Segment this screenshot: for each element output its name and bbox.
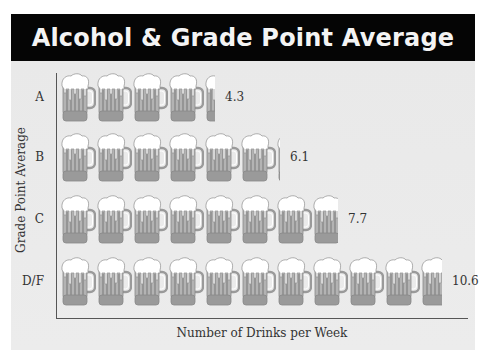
value-label: 6.1 [290, 150, 309, 164]
value-label: 10.6 [452, 274, 479, 288]
beer-mug-icon [421, 256, 442, 308]
category-label: A [35, 90, 44, 104]
beer-mug-icon [61, 194, 96, 246]
beer-mug-icon [277, 132, 280, 184]
beer-mug-icon [241, 132, 276, 184]
mug-bar [61, 194, 338, 246]
beer-mug-icon [349, 256, 384, 308]
bar-row-a: A 4.3 [0, 72, 491, 124]
beer-mug-icon [313, 256, 348, 308]
beer-mug-icon [97, 194, 132, 246]
bar-row-b: B [0, 132, 491, 184]
x-axis-title: Number of Drinks per Week [56, 326, 468, 340]
beer-mug-icon [169, 132, 204, 184]
mug-bar [61, 132, 280, 184]
beer-mug-icon [61, 72, 96, 124]
beer-mug-icon [61, 132, 96, 184]
chart-title: Alcohol & Grade Point Average [11, 14, 475, 61]
beer-mug-icon [241, 256, 276, 308]
beer-mug-icon [205, 256, 240, 308]
category-label: C [35, 212, 44, 226]
x-axis-line [56, 318, 468, 319]
beer-mug-icon [133, 132, 168, 184]
beer-mug-icon [169, 72, 204, 124]
beer-mug-icon [133, 194, 168, 246]
beer-mug-icon [205, 194, 240, 246]
mug-bar [61, 256, 442, 308]
bar-row-c: C [0, 194, 491, 246]
beer-mug-icon [169, 194, 204, 246]
beer-mug-icon [133, 256, 168, 308]
beer-mug-icon [97, 72, 132, 124]
beer-mug-icon [313, 194, 338, 246]
mug-bar [61, 72, 215, 124]
beer-mug-icon [277, 194, 312, 246]
beer-mug-icon [61, 256, 96, 308]
category-label: B [35, 150, 44, 164]
beer-mug-icon [241, 194, 276, 246]
value-label: 4.3 [225, 90, 244, 104]
beer-mug-icon [169, 256, 204, 308]
beer-mug-icon [133, 72, 168, 124]
beer-mug-icon [277, 256, 312, 308]
value-label: 7.7 [348, 212, 367, 226]
bar-row-df: D/F [0, 256, 491, 308]
category-label: D/F [22, 274, 44, 288]
beer-mug-icon [385, 256, 420, 308]
beer-mug-icon [205, 132, 240, 184]
beer-mug-icon [97, 132, 132, 184]
beer-mug-icon [97, 256, 132, 308]
beer-mug-icon [205, 72, 215, 124]
